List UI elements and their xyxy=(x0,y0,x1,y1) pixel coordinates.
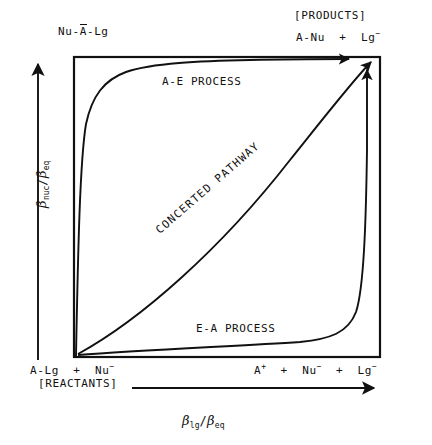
corner-top-left-atom: A xyxy=(80,24,87,38)
x-axis-title: βlg/βeq xyxy=(182,414,224,431)
corner-label-top-left: Nu-A-Lg xyxy=(58,26,109,39)
ea-process-label: E-A PROCESS xyxy=(196,323,275,336)
corner-bottom-right-species3: Lg xyxy=(358,364,372,377)
corner-bottom-right-plus2: + xyxy=(321,364,357,377)
corner-top-left-pre: Nu- xyxy=(58,25,80,38)
corner-label-bottom-left: A-Lg + Nu− xyxy=(30,362,114,377)
corner-bottom-left-species2: Nu xyxy=(95,364,109,377)
corner-top-right-species2: Lg xyxy=(361,31,375,44)
ae-process-label: A-E PROCESS xyxy=(162,76,241,89)
corner-bottom-left-plus: + xyxy=(59,364,95,377)
y-axis-beta-1: β xyxy=(34,200,49,208)
y-axis-subscript-1: nuc xyxy=(42,186,51,200)
y-axis-beta-2: β xyxy=(34,170,49,178)
corner-label-top-right: A-Nu + Lg− xyxy=(296,29,380,44)
corner-bottom-left-species1: A-Lg xyxy=(30,364,59,377)
x-axis-beta-2: β xyxy=(207,413,215,428)
corner-top-right-species1: A-Nu xyxy=(296,31,325,44)
y-axis-title: βnuc/βeq xyxy=(35,149,52,219)
more-ofarrall-jencks-diagram: Nu-A-Lg [PRODUCTS] A-Nu + Lg− A-Lg + Nu−… xyxy=(0,0,432,445)
corner-bottom-right-plus1: + xyxy=(266,364,302,377)
reactants-tag: [REACTANTS] xyxy=(38,378,117,391)
x-axis-beta-1: β xyxy=(182,413,190,428)
y-axis-slash: / xyxy=(35,178,49,186)
x-axis-slash: / xyxy=(199,414,207,428)
products-tag: [PRODUCTS] xyxy=(294,10,366,23)
ae-process-curve xyxy=(76,59,349,356)
x-axis-subscript-2: eq xyxy=(215,421,225,430)
corner-top-left-post: -Lg xyxy=(87,25,109,38)
ea-process-curve xyxy=(78,70,367,355)
corner-top-right-charge: − xyxy=(375,29,380,38)
plot-frame xyxy=(74,57,380,357)
corner-bottom-left-charge: − xyxy=(109,362,114,371)
corner-bottom-right-species2: Nu xyxy=(302,364,316,377)
corner-bottom-right-charge3: − xyxy=(372,362,377,371)
concerted-pathway-curve xyxy=(78,62,371,354)
corner-label-bottom-right: A+ + Nu− + Lg− xyxy=(254,362,377,377)
y-axis-subscript-2: eq xyxy=(42,161,51,171)
corner-top-right-plus: + xyxy=(325,31,361,44)
